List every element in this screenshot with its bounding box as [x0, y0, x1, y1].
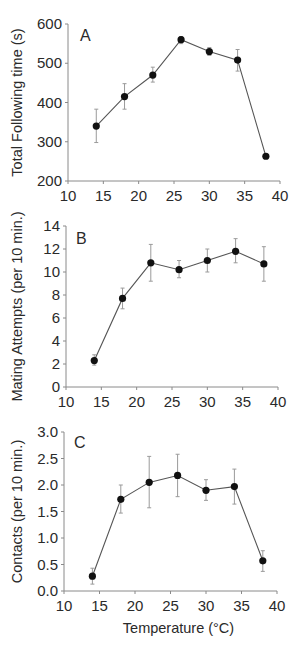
data-point	[146, 479, 153, 486]
x-tick-label: 15	[93, 393, 110, 410]
x-tick-label: 40	[269, 597, 286, 614]
data-point	[174, 472, 181, 479]
x-tick-label: 25	[162, 597, 179, 614]
x-tick-label: 30	[199, 393, 216, 410]
x-tick-label: 40	[272, 187, 289, 204]
data-point	[204, 257, 211, 264]
data-point	[119, 295, 126, 302]
panel-b: 0246810121410152025303540Mating Attempts…	[9, 211, 286, 410]
x-tick-label: 10	[60, 187, 77, 204]
x-tick-label: 40	[270, 393, 287, 410]
y-tick-label: 12	[43, 240, 60, 257]
data-point	[231, 483, 238, 490]
data-point	[91, 357, 98, 364]
y-tick-label: 300	[37, 133, 62, 150]
y-tick-label: 4	[52, 332, 60, 349]
x-tick-label: 35	[236, 187, 253, 204]
y-axis-title: Mating Attempts (per 10 min.)	[9, 211, 25, 401]
y-tick-label: 2.0	[37, 476, 58, 493]
panel-letter: C	[74, 434, 86, 451]
data-point	[149, 71, 156, 78]
y-axis-title: Total Following time (s)	[9, 28, 25, 176]
y-tick-label: 2.5	[37, 450, 58, 467]
y-tick-label: 200	[37, 172, 62, 189]
data-point	[147, 259, 154, 266]
y-tick-label: 3.0	[37, 423, 58, 440]
x-tick-label: 20	[130, 187, 147, 204]
data-point	[89, 573, 96, 580]
x-tick-label: 35	[233, 597, 250, 614]
panel-letter: B	[76, 230, 87, 247]
data-point	[121, 93, 128, 100]
data-point	[259, 557, 266, 564]
x-tick-label: 30	[198, 597, 215, 614]
data-point	[260, 260, 267, 267]
y-tick-label: 600	[37, 15, 62, 32]
y-tick-label: 400	[37, 94, 62, 111]
y-tick-label: 1.0	[37, 529, 58, 546]
data-point	[202, 487, 209, 494]
x-tick-label: 25	[164, 393, 181, 410]
data-point	[262, 153, 269, 160]
y-tick-label: 0.5	[37, 556, 58, 573]
data-point	[206, 48, 213, 55]
x-tick-label: 15	[95, 187, 112, 204]
data-point	[234, 57, 241, 64]
y-tick-label: 1.5	[37, 503, 58, 520]
x-tick-label: 30	[201, 187, 218, 204]
x-axis-title: Temperature (°C)	[123, 620, 234, 636]
y-tick-label: 14	[43, 217, 60, 234]
data-point	[177, 36, 184, 43]
panel-a: 20030040050060010152025303540Total Follo…	[9, 15, 288, 204]
y-tick-label: 6	[52, 309, 60, 326]
x-tick-label: 10	[58, 393, 75, 410]
data-point	[232, 248, 239, 255]
chart-canvas: 20030040050060010152025303540Total Follo…	[0, 0, 302, 649]
y-tick-label: 500	[37, 54, 62, 71]
x-tick-label: 10	[56, 597, 73, 614]
x-tick-label: 20	[127, 597, 144, 614]
y-tick-label: 2	[52, 355, 60, 372]
panel-c: 0.00.51.01.52.02.53.010152025303540Conta…	[9, 423, 285, 614]
data-point	[117, 496, 124, 503]
panel-letter: A	[80, 27, 91, 44]
x-tick-label: 20	[128, 393, 145, 410]
y-tick-label: 8	[52, 286, 60, 303]
data-point	[93, 122, 100, 129]
x-tick-label: 35	[234, 393, 251, 410]
y-tick-label: 10	[43, 263, 60, 280]
x-tick-label: 15	[91, 597, 108, 614]
x-tick-label: 25	[166, 187, 183, 204]
y-axis-title: Contacts (per 10 min.)	[9, 440, 25, 583]
data-point	[175, 266, 182, 273]
figure: 20030040050060010152025303540Total Follo…	[0, 0, 302, 649]
